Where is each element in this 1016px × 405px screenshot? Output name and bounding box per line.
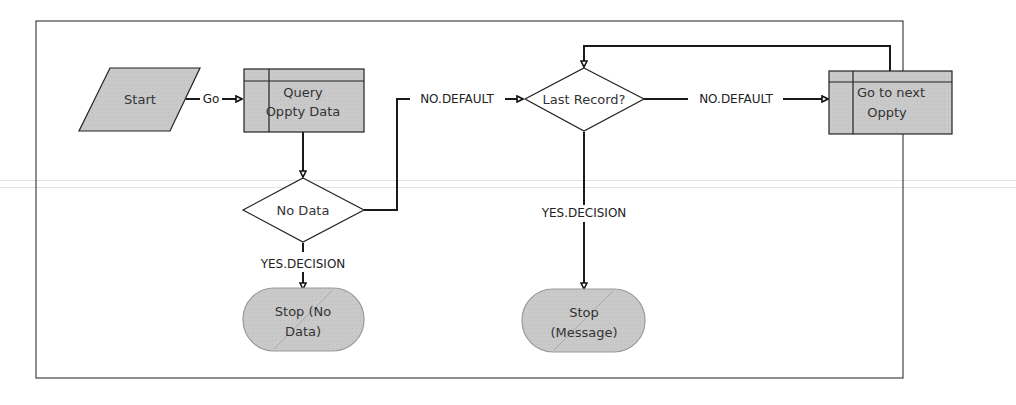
node-query-oppty-data[interactable]: Query Oppty Data (244, 69, 364, 132)
node-stop-message-line1: Stop (569, 305, 599, 320)
node-stop-no-data-line2: Data) (285, 324, 321, 339)
node-start[interactable]: Start (79, 68, 200, 131)
edge-label-no-default: NO.DEFAULT (420, 92, 494, 106)
edge-nodata-lastrecord-a (364, 99, 410, 210)
edge-label-go: Go (203, 92, 220, 106)
edge-next-lastrecord-loop (584, 46, 890, 71)
node-query-line1: Query (283, 85, 323, 100)
node-query-line2: Oppty Data (266, 104, 341, 119)
node-stop-no-data-line1: Stop (No (275, 304, 331, 319)
node-stop-message[interactable]: Stop (Message) (522, 289, 645, 352)
node-start-label: Start (124, 92, 156, 107)
node-stop-message-line2: (Message) (550, 325, 617, 340)
edge-label-no-default: NO.DEFAULT (699, 92, 773, 106)
edge-label-yes-decision: YES.DECISION (541, 206, 627, 220)
node-go-to-next-oppty[interactable]: Go to next Oppty (829, 71, 952, 134)
node-stop-no-data[interactable]: Stop (No Data) (243, 288, 364, 351)
node-last-record-label: Last Record? (542, 92, 625, 107)
node-no-data[interactable]: No Data (243, 178, 364, 242)
edge-label-yes-decision: YES.DECISION (260, 257, 346, 271)
flowchart-canvas: Go NO.DEFAULT NO.DEFAULT YES.DECISION YE… (0, 0, 1016, 405)
node-last-record[interactable]: Last Record? (525, 68, 644, 131)
node-no-data-label: No Data (277, 203, 330, 218)
node-next-line2: Oppty (867, 105, 907, 120)
node-next-line1: Go to next (857, 85, 925, 100)
